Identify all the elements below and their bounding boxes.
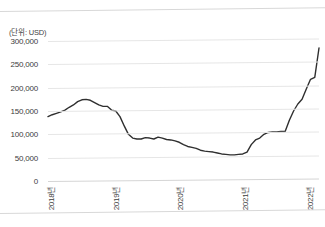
plot-area: 050,000100,000150,000200,000250,000300,0… [48, 41, 319, 181]
x-tick-label: 2022년 [304, 187, 315, 210]
x-tick-label: 2018년 [45, 187, 56, 210]
y-tick-label: 0 [0, 177, 38, 186]
y-tick-label: 50,000 [0, 153, 38, 162]
y-axis-unit-label: (단위: USD) [9, 26, 46, 37]
scan-rule-top [0, 7, 325, 12]
line-chart-figure: (단위: USD) 050,000100,000150,000200,00025… [0, 0, 325, 227]
page-title [150, 0, 270, 3]
y-tick-label: 300,000 [0, 37, 38, 46]
y-tick-label: 150,000 [0, 107, 38, 116]
x-tick-label: 2020년 [174, 187, 185, 210]
x-tick-label: 2019년 [110, 187, 121, 210]
x-tick-label: 2021년 [239, 187, 250, 210]
y-tick-label: 100,000 [0, 130, 38, 139]
y-tick-label: 250,000 [0, 60, 38, 69]
y-tick-label: 200,000 [0, 83, 38, 92]
